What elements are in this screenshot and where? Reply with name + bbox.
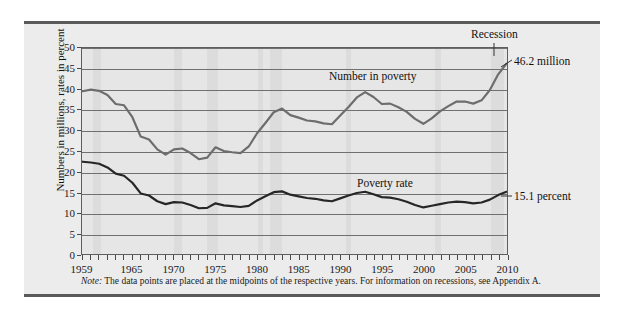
x-tick-mark bbox=[382, 255, 383, 260]
series-lines bbox=[82, 48, 507, 254]
x-tick-mark bbox=[115, 255, 116, 260]
y-tick-label: 0 bbox=[49, 250, 75, 261]
rate-end-value-annotation: 15.1 percent bbox=[514, 190, 571, 202]
y-tick-mark bbox=[77, 255, 81, 256]
x-tick-mark bbox=[240, 255, 241, 260]
series-line bbox=[82, 64, 506, 160]
x-tick-label: 1995 bbox=[362, 264, 402, 275]
x-tick-mark bbox=[374, 255, 375, 260]
x-tick-mark bbox=[366, 255, 367, 260]
series-line bbox=[82, 162, 506, 209]
x-tick-mark bbox=[324, 255, 325, 260]
x-tick-label: 2000 bbox=[404, 264, 444, 275]
x-tick-mark bbox=[441, 255, 442, 260]
x-tick-label: 1959 bbox=[62, 264, 102, 275]
y-tick-label: 20 bbox=[49, 167, 75, 178]
x-tick-mark bbox=[132, 255, 133, 260]
y-tick-label: 25 bbox=[49, 146, 75, 157]
x-tick-mark bbox=[282, 255, 283, 260]
x-tick-mark bbox=[257, 255, 258, 260]
x-tick-mark bbox=[407, 255, 408, 260]
x-tick-mark bbox=[148, 255, 149, 260]
x-tick-mark bbox=[232, 255, 233, 260]
x-tick-label: 1990 bbox=[320, 264, 360, 275]
x-tick-mark bbox=[299, 255, 300, 260]
x-tick-mark bbox=[82, 255, 83, 260]
x-tick-label: 1965 bbox=[112, 264, 152, 275]
x-tick-label: 1980 bbox=[237, 264, 277, 275]
x-tick-mark bbox=[249, 255, 250, 260]
x-tick-label: 1975 bbox=[195, 264, 235, 275]
x-tick-mark bbox=[474, 255, 475, 260]
poverty-chart-figure: Numbers in millions, rates in percent 05… bbox=[0, 0, 624, 321]
x-tick-mark bbox=[491, 255, 492, 260]
x-tick-mark bbox=[432, 255, 433, 260]
y-tick-label: 45 bbox=[49, 63, 75, 74]
poverty-rate-label: Poverty rate bbox=[357, 177, 413, 189]
x-tick-mark bbox=[424, 255, 425, 260]
plot-area bbox=[81, 47, 508, 255]
number-in-poverty-label: Number in poverty bbox=[329, 70, 417, 82]
x-tick-mark bbox=[399, 255, 400, 260]
note-prefix: Note: bbox=[81, 276, 102, 286]
x-tick-mark bbox=[173, 255, 174, 260]
x-tick-mark bbox=[265, 255, 266, 260]
x-tick-label: 2005 bbox=[446, 264, 486, 275]
x-tick-mark bbox=[357, 255, 358, 260]
x-tick-mark bbox=[457, 255, 458, 260]
number-end-value-annotation: 46.2 million bbox=[514, 55, 570, 67]
x-tick-mark bbox=[391, 255, 392, 260]
y-tick-label: 10 bbox=[49, 208, 75, 219]
x-tick-mark bbox=[215, 255, 216, 260]
x-tick-label: 1985 bbox=[279, 264, 319, 275]
y-tick-label: 5 bbox=[49, 229, 75, 240]
y-tick-label: 35 bbox=[49, 104, 75, 115]
x-tick-mark bbox=[107, 255, 108, 260]
x-tick-mark bbox=[508, 255, 509, 260]
x-tick-mark bbox=[416, 255, 417, 260]
bottom-rule bbox=[24, 294, 600, 297]
x-tick-mark bbox=[224, 255, 225, 260]
x-tick-mark bbox=[274, 255, 275, 260]
x-tick-mark bbox=[466, 255, 467, 260]
x-tick-mark bbox=[315, 255, 316, 260]
x-tick-mark bbox=[140, 255, 141, 260]
y-tick-label: 30 bbox=[49, 125, 75, 136]
figure-note: Note: The data points are placed at the … bbox=[81, 276, 581, 286]
x-tick-mark bbox=[157, 255, 158, 260]
x-tick-mark bbox=[449, 255, 450, 260]
x-tick-mark bbox=[123, 255, 124, 260]
x-tick-mark bbox=[499, 255, 500, 260]
x-tick-label: 1970 bbox=[153, 264, 193, 275]
y-tick-label: 50 bbox=[49, 42, 75, 53]
x-tick-mark bbox=[198, 255, 199, 260]
x-tick-mark bbox=[182, 255, 183, 260]
x-tick-mark bbox=[307, 255, 308, 260]
x-tick-mark bbox=[207, 255, 208, 260]
x-tick-mark bbox=[190, 255, 191, 260]
recession-annotation: Recession bbox=[471, 28, 518, 40]
y-tick-label: 15 bbox=[49, 188, 75, 199]
x-tick-mark bbox=[340, 255, 341, 260]
x-tick-mark bbox=[165, 255, 166, 260]
x-tick-mark bbox=[290, 255, 291, 260]
y-tick-label: 40 bbox=[49, 84, 75, 95]
x-tick-mark bbox=[332, 255, 333, 260]
x-tick-mark bbox=[482, 255, 483, 260]
x-tick-mark bbox=[90, 255, 91, 260]
x-tick-mark bbox=[98, 255, 99, 260]
x-tick-mark bbox=[349, 255, 350, 260]
x-tick-label: 2010 bbox=[488, 264, 528, 275]
note-text: The data points are placed at the midpoi… bbox=[102, 276, 541, 286]
